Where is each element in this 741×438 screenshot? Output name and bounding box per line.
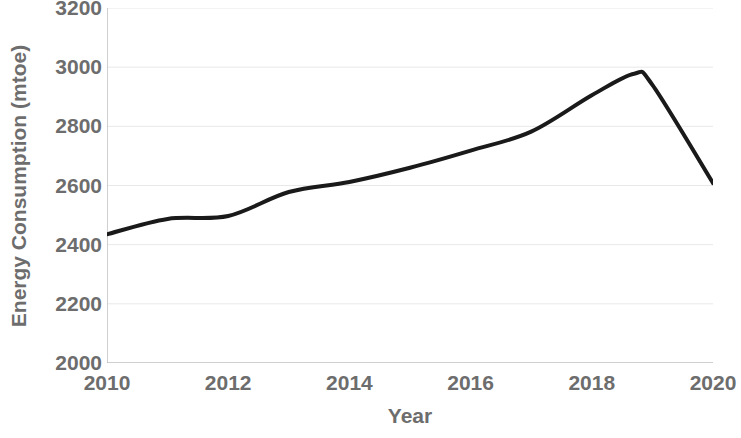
y-tick-label: 2200 [36, 293, 102, 314]
y-tick-label: 3000 [36, 56, 102, 77]
y-axis-title-label: Energy Consumption (mtoe) [7, 45, 31, 327]
x-tick-label: 2014 [304, 372, 394, 393]
x-axis-title: Year [107, 404, 713, 428]
y-tick-label: 2600 [36, 175, 102, 196]
gridlines [107, 8, 713, 304]
y-tick-label: 2400 [36, 234, 102, 255]
x-tick-label: 2012 [183, 372, 273, 393]
y-tick-label: 2800 [36, 115, 102, 136]
plot-svg [107, 8, 713, 363]
x-tick-label: 2010 [62, 372, 152, 393]
plot-area [107, 8, 713, 363]
x-tick-label: 2018 [547, 372, 637, 393]
x-tick-label: 2020 [668, 372, 741, 393]
x-tick-label: 2016 [426, 372, 516, 393]
data-series-line [107, 72, 713, 235]
y-tick-label: 2000 [36, 352, 102, 373]
y-tick-label: 3200 [36, 0, 102, 18]
